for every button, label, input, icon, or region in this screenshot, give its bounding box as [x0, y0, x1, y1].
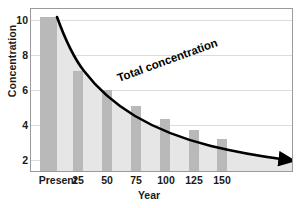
- x-tick-label: 150: [213, 174, 231, 186]
- x-axis-tick-labels: Present 25 50 75 100 125 150: [0, 174, 298, 188]
- y-tick-label: 10: [8, 15, 28, 25]
- bar: [40, 17, 57, 171]
- bar: [73, 71, 83, 171]
- x-tick-label: 100: [157, 174, 175, 186]
- x-tick-label: 50: [101, 174, 113, 186]
- plot-area: Total concentration: [30, 8, 293, 172]
- chart-figure: Concentration 10 8 6 4 2: [0, 0, 298, 208]
- x-tick-label: 25: [72, 174, 84, 186]
- x-tick-label: 75: [130, 174, 142, 186]
- curve-annotation: Total concentration: [116, 36, 220, 83]
- chart-canvas: Total concentration: [31, 9, 292, 171]
- y-tick-label: 4: [8, 120, 28, 130]
- bar: [102, 90, 112, 171]
- x-tick-label: 125: [185, 174, 203, 186]
- bar: [160, 119, 170, 171]
- bar: [217, 139, 227, 171]
- y-tick-label: 2: [8, 155, 28, 165]
- y-tick-label: 8: [8, 50, 28, 60]
- y-tick-label: 6: [8, 85, 28, 95]
- x-axis-title: Year: [0, 189, 298, 201]
- bar: [189, 130, 199, 171]
